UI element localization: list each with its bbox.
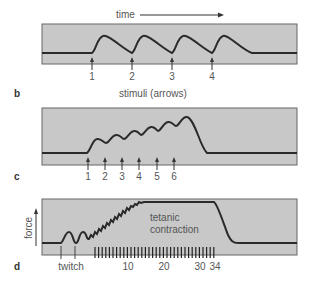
panel-c-stimulus-3: 3 [119,171,125,182]
panel-c-stimulus-2: 2 [102,171,108,182]
panel-d-tick-20: 20 [158,261,170,272]
panel-d-tick-10: 10 [122,261,134,272]
panel-d-tick-34: 34 [209,261,221,272]
twitch-label: twitch [58,261,84,272]
panel-b-stimulus-3: 3 [169,71,175,82]
force-axis-label: force [23,216,34,239]
panel-d-tick-30: 30 [194,261,206,272]
time-arrow-head-icon [218,13,224,18]
panel-b-stimulus-2: 2 [129,71,135,82]
panel-b-stimulus-4: 4 [209,71,215,82]
time-label: time [116,9,135,20]
tetanic-label-line1: tetanic [150,212,179,223]
panel-c: 1 2 3 4 5 6 c [14,108,297,182]
panel-b-background [42,24,297,64]
panel-b: 1 2 3 4 b stimuli (arrows) [14,24,297,99]
panel-b-letter: b [14,88,20,99]
panel-c-letter: c [14,171,20,182]
panel-c-stimulus-4: 4 [136,171,142,182]
panel-c-stimulus-1: 1 [85,171,91,182]
panel-d: force tetanic contraction twi [14,199,297,272]
time-axis: time [116,9,224,20]
tetanic-label-line2: contraction [150,224,199,235]
panel-b-stimulus-1: 1 [89,71,95,82]
force-axis-arrow-icon [34,208,38,214]
panel-b-caption: stimuli (arrows) [119,88,187,99]
muscle-contraction-diagram: time 1 2 3 4 b stimuli (arrows) [0,0,310,288]
panel-d-letter: d [14,261,20,272]
panel-c-background [42,108,297,165]
panel-c-stimulus-5: 5 [154,171,160,182]
panel-c-stimulus-6: 6 [171,171,177,182]
